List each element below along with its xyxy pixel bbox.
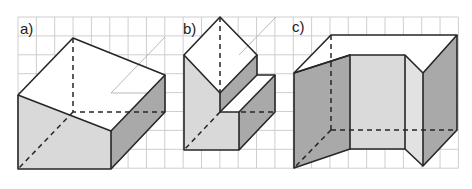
solid-c-inner-right-panel (405, 55, 423, 166)
panel-label-b: b) (183, 20, 196, 37)
figure-canvas: a) b) c) (0, 0, 472, 189)
solid-c-middle-panel (350, 55, 405, 149)
solid-c: c) (292, 18, 457, 168)
panel-label-c: c) (292, 18, 305, 35)
panel-label-a: a) (20, 20, 33, 37)
